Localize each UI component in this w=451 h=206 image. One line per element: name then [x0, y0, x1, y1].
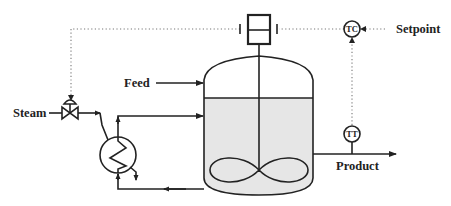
setpoint-label: Setpoint [396, 22, 441, 36]
tc-label: TC [346, 24, 358, 34]
condensate-line [130, 167, 136, 180]
steam-control-valve-icon[interactable] [62, 100, 78, 119]
feed-label: Feed [124, 76, 150, 90]
tt-label: TT [346, 129, 358, 139]
recirculation-supply [118, 116, 203, 137]
process-diagram: Feed Steam Product TT TC Setpoint [0, 0, 451, 206]
recirculation-return [118, 174, 204, 189]
steam-label: Steam [13, 106, 47, 120]
product-label: Product [336, 159, 380, 173]
